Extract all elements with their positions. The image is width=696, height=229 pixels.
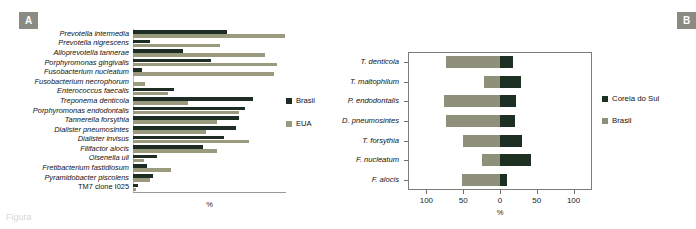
panel-b-tick-mark <box>537 190 538 194</box>
panel-b-bar-segment-brasil <box>463 135 500 147</box>
panel-b-bar <box>408 135 592 147</box>
panel-b-bar-segment-coreia-do-sul <box>500 76 521 88</box>
panel-b-tick-mark <box>463 190 464 194</box>
panel-b-badge: B <box>677 12 696 29</box>
panel-a-category-label: Fusobacterium nucleatum <box>44 67 129 77</box>
panel-b-row-tick <box>404 101 408 102</box>
panel-a-bar <box>133 34 285 38</box>
panel-b-tick-label: 0 <box>485 196 515 205</box>
panel-b-tick-label: 100 <box>411 196 441 205</box>
panel-a-bar <box>133 159 144 163</box>
panel-a-category-label: Treponema denticola <box>60 96 129 106</box>
panel-b-bar <box>408 56 592 68</box>
panel-a-category-label: Porphyromonas endodontalis <box>33 106 129 116</box>
panel-a-bar <box>133 178 150 182</box>
panel-a-x-axis-title: % <box>133 200 286 209</box>
panel-b-bar <box>408 174 592 186</box>
panel-b-category-label: T. forsythia <box>362 135 399 147</box>
panel-b-x-axis-title: % <box>408 208 592 217</box>
panel-a-category-label: Fretibacterium fastidiosum <box>42 163 129 173</box>
panel-a-category-label: Enterococcus faecalis <box>57 86 129 96</box>
panel-b-bar-segment-brasil <box>482 154 500 166</box>
panel-b-bar <box>408 115 592 127</box>
panel-b-category-label: D. pneumosintes <box>342 115 399 127</box>
panel-b-tick-mark <box>574 190 575 194</box>
panel-b-category-label: F. alocis <box>372 174 399 186</box>
panel-a-bar <box>133 111 239 115</box>
panel-a-category-label: Olsenella uli <box>89 153 129 163</box>
panel-a-category-label: Fusobacterium necrophorum <box>35 77 129 87</box>
panel-b-category-label: F. nucleatum <box>356 154 399 166</box>
panel-a-bar <box>133 140 249 144</box>
legend-item-brasil: Brasil <box>602 116 659 125</box>
panel-b-tick-label: 100 <box>559 196 589 205</box>
panel-b-row-tick <box>404 160 408 161</box>
panel-b-bar-segment-brasil <box>446 56 500 68</box>
panel-a-category-label: Filifactor alocis <box>80 144 129 154</box>
panel-b-bar-segment-brasil <box>446 115 500 127</box>
panel-b-bar-segment-coreia-do-sul <box>500 56 513 68</box>
panel-b-plot-area <box>408 52 592 190</box>
legend-item-coreia-do-sul: Coreia do Sul <box>602 94 659 103</box>
panel-a: A Prevotella intermediaPrevotella nigres… <box>0 0 330 229</box>
panel-a-bar <box>133 82 145 86</box>
panel-a-bar <box>133 92 168 96</box>
legend-swatch-coreia-do-sul <box>602 96 608 102</box>
legend-item-eua: EUA <box>286 119 315 128</box>
panel-a-bar <box>133 44 220 48</box>
panel-b-row-tick <box>404 62 408 63</box>
panel-b-bar-segment-coreia-do-sul <box>500 95 516 107</box>
panel-a-plot-area <box>133 29 285 192</box>
panel-a-bar <box>133 63 277 67</box>
panel-b-category-label: T. maltophilum <box>350 76 399 88</box>
panel-b-bar-segment-coreia-do-sul <box>500 154 531 166</box>
panel-a-category-label: Dialister invisus <box>78 134 129 144</box>
panel-a-bar <box>133 72 274 76</box>
panel-b-bar-segment-brasil <box>444 95 500 107</box>
panel-a-category-label: Dialister pneumosintes <box>54 125 129 135</box>
panel-b-bar-segment-coreia-do-sul <box>500 135 522 147</box>
panel-a-bar <box>133 188 136 192</box>
panel-a-bar <box>133 149 217 153</box>
legend-label-eua: EUA <box>296 119 312 128</box>
panel-a-bar <box>133 120 217 124</box>
legend-label-coreia-do-sul: Coreia do Sul <box>612 94 659 103</box>
panel-a-bar <box>133 53 265 57</box>
panel-a-bar <box>133 101 188 105</box>
panel-b-legend: Coreia do Sul Brasil <box>602 94 659 138</box>
panel-b-row-tick <box>404 141 408 142</box>
panel-a-category-label: Prevotella nigrescens <box>58 38 129 48</box>
legend-item-brasil: Brasil <box>286 96 315 105</box>
legend-swatch-eua <box>286 121 292 127</box>
legend-label-brasil: Brasil <box>612 116 632 125</box>
panel-b: B T. denticolaT. maltophilumP. endodonta… <box>330 0 654 229</box>
legend-swatch-brasil <box>602 118 608 124</box>
panel-b-bar-segment-brasil <box>484 76 500 88</box>
panel-b-tick-label: 50 <box>522 196 552 205</box>
panel-b-bar <box>408 95 592 107</box>
panel-a-category-label: Alloprevotella tannerae <box>53 48 129 58</box>
panel-b-tick-mark <box>500 190 501 194</box>
panel-a-legend: Brasil EUA <box>286 96 315 142</box>
legend-label-brasil: Brasil <box>296 96 315 105</box>
panel-a-category-label: Tannerella forsythia <box>65 115 129 125</box>
panel-a-category-label: Pyramidobacter piscolens <box>44 173 129 183</box>
panel-a-bar <box>133 130 206 134</box>
panel-a-category-label: Porphyromonas gingivalis <box>44 58 129 68</box>
panel-a-x-axis-line <box>133 192 286 193</box>
legend-swatch-brasil <box>286 98 292 104</box>
panel-b-bar <box>408 154 592 166</box>
panel-b-bar-segment-coreia-do-sul <box>500 115 515 127</box>
panel-b-tick-label: 50 <box>448 196 478 205</box>
panel-b-bar-segment-brasil <box>462 174 500 186</box>
panel-a-category-label: TM7 clone I025 <box>78 182 129 192</box>
panel-a-badge: A <box>19 12 38 29</box>
panel-b-category-labels: T. denticolaT. maltophilumP. endodontali… <box>330 52 405 190</box>
panel-b-row-tick <box>404 121 408 122</box>
panel-b-row-tick <box>404 82 408 83</box>
panel-b-bar <box>408 76 592 88</box>
panel-b-category-label: T. denticola <box>360 56 399 68</box>
panel-b-row-tick <box>404 180 408 181</box>
panel-a-category-labels: Prevotella intermediaPrevotella nigresce… <box>0 29 131 192</box>
